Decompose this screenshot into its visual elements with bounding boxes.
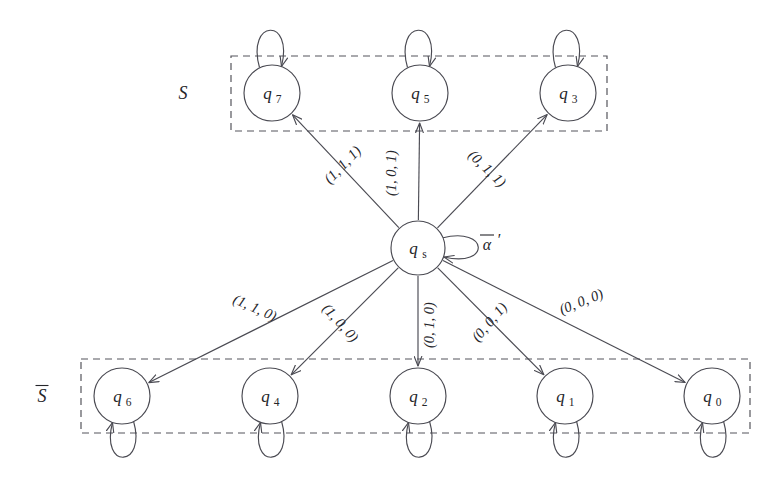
group-label-group-Sbar: S: [38, 386, 47, 406]
state-label-q7: q: [263, 84, 272, 103]
self-loop-labels-layer: α′: [480, 231, 501, 254]
group-labels-layer: SS: [36, 83, 188, 406]
self-loop-q2: [406, 421, 432, 457]
state-circle-q2[interactable]: [390, 368, 446, 424]
state-node-q1[interactable]: q1: [537, 368, 593, 424]
transition-label-qs-to-q7: (1, 1, 1): [321, 142, 365, 187]
automaton-diagram: qsq7q5q3q6q4q2q1q0 (1, 1, 1)(1, 0, 1)(0,…: [0, 0, 782, 491]
self-loop-q1: [553, 421, 579, 457]
self-loop-label-qs: α: [483, 236, 492, 253]
state-node-q3[interactable]: q3: [540, 65, 596, 121]
transition-label-qs-to-q6: (1, 1, 0): [230, 291, 279, 325]
state-subscript-q1: 1: [569, 396, 575, 408]
state-label-q0: q: [703, 387, 712, 406]
state-label-q6: q: [113, 387, 122, 406]
state-label-qs: q: [409, 239, 418, 258]
state-subscript-q5: 5: [424, 93, 430, 105]
state-subscript-q7: 7: [276, 93, 282, 105]
transition-label-qs-to-q3: (0, 1, 1): [465, 147, 510, 191]
transition-label-qs-to-q4: (1, 0, 0): [319, 300, 362, 346]
state-subscript-q6: 6: [126, 396, 132, 408]
state-label-q4: q: [261, 387, 270, 406]
prime-mark-self-loop-qs: ′: [497, 231, 501, 248]
state-node-q4[interactable]: q4: [242, 368, 298, 424]
state-node-q2[interactable]: q2: [390, 368, 446, 424]
self-loop-q5: [405, 30, 432, 67]
self-loop-q7: [257, 30, 284, 67]
state-label-q5: q: [411, 84, 420, 103]
self-loop-q4: [258, 421, 284, 457]
state-circle-q4[interactable]: [242, 368, 298, 424]
self-loop-q0: [700, 421, 726, 457]
state-node-q5[interactable]: q5: [392, 65, 448, 121]
state-nodes-layer: qsq7q5q3q6q4q2q1q0: [94, 65, 740, 424]
state-subscript-q2: 2: [422, 396, 428, 408]
state-node-q6[interactable]: q6: [94, 368, 150, 424]
state-circle-q6[interactable]: [94, 368, 150, 424]
self-loop-q3: [553, 30, 580, 67]
state-node-q0[interactable]: q0: [684, 368, 740, 424]
transition-qs-to-q5: [418, 123, 419, 220]
group-label-group-S: S: [179, 83, 188, 103]
state-circle-q1[interactable]: [537, 368, 593, 424]
state-circle-q3[interactable]: [540, 65, 596, 121]
transition-label-qs-to-q5: (1, 0, 1): [383, 150, 400, 196]
self-loop-qs: [442, 236, 478, 259]
state-subscript-qs: s: [422, 248, 427, 260]
state-node-qs[interactable]: qs: [391, 221, 445, 275]
state-circle-q5[interactable]: [392, 65, 448, 121]
automaton-svg: qsq7q5q3q6q4q2q1q0 (1, 1, 1)(1, 0, 1)(0,…: [0, 0, 782, 491]
state-subscript-q4: 4: [274, 396, 280, 408]
state-label-q3: q: [559, 84, 568, 103]
transition-label-qs-to-q0: (0, 0, 0): [557, 285, 606, 318]
transition-label-qs-to-q2: (0, 1, 0): [421, 302, 438, 348]
state-circle-q0[interactable]: [684, 368, 740, 424]
state-node-q7[interactable]: q7: [244, 65, 300, 121]
state-circle-q7[interactable]: [244, 65, 300, 121]
self-loop-q6: [110, 421, 136, 457]
state-subscript-q3: 3: [572, 93, 578, 105]
state-label-q1: q: [556, 387, 565, 406]
state-subscript-q0: 0: [716, 396, 722, 408]
state-label-q2: q: [409, 387, 418, 406]
state-circle-qs[interactable]: [391, 221, 445, 275]
